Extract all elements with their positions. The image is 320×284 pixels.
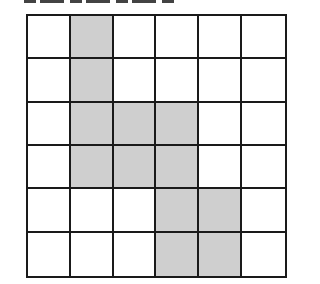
grid-cell (242, 16, 285, 59)
grid-cell-shaded (156, 103, 199, 146)
grid-cell-shaded (114, 146, 157, 189)
grid-cell (28, 233, 71, 276)
grid-cell (114, 16, 157, 59)
grid-cell (114, 59, 157, 102)
grid-cell (242, 146, 285, 189)
grid-cell (242, 59, 285, 102)
grid-cell-shaded (199, 233, 242, 276)
grid-cell (242, 103, 285, 146)
grid-cell-shaded (156, 189, 199, 232)
grid-cell-shaded (156, 233, 199, 276)
grid-cell-shaded (156, 146, 199, 189)
grid-cell (28, 103, 71, 146)
grid-cell (199, 16, 242, 59)
grid-cell (114, 233, 157, 276)
grid-cell-shaded (71, 103, 114, 146)
grid-cell (199, 59, 242, 102)
grid-cell (28, 189, 71, 232)
grid-cell (71, 233, 114, 276)
grid-cell-shaded (114, 103, 157, 146)
grid-cell (28, 16, 71, 59)
grid-cell (242, 189, 285, 232)
grid-cell (28, 59, 71, 102)
grid-cell-shaded (71, 59, 114, 102)
grid-cell (114, 189, 157, 232)
shaded-grid (26, 14, 287, 278)
grid-cell-shaded (71, 146, 114, 189)
grid-cell (71, 189, 114, 232)
grid-cell (199, 103, 242, 146)
grid-cell-shaded (199, 189, 242, 232)
grid-cell (156, 16, 199, 59)
grid-cell-shaded (71, 16, 114, 59)
grid-cell (199, 146, 242, 189)
cutoff-heading-fragment (24, 0, 174, 3)
grid-cell (28, 146, 71, 189)
grid-cell (242, 233, 285, 276)
grid-cell (156, 59, 199, 102)
